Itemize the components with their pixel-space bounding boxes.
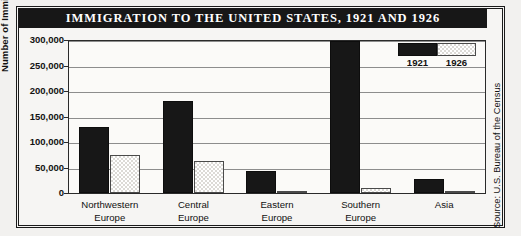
x-label-line1: Asia [402,199,486,212]
y-tick-label: 50,000 [18,162,64,173]
y-tick-label: 300,000 [18,34,64,45]
x-label-2: CentralEurope [152,199,236,224]
x-label-line2: Europe [152,212,236,225]
x-label-line1: Southern [319,199,403,212]
x-label-4: SouthernEurope [319,199,403,224]
legend-swatches [398,43,476,56]
x-label-line2: Europe [319,212,403,225]
legend-label-1926: 1926 [437,57,476,68]
x-label-line1: Northwestern [68,199,152,212]
bar-1926 [277,191,307,193]
chart-title: IMMIGRATION TO THE UNITED STATES, 1921 A… [19,9,487,28]
legend-labels: 1921 1926 [398,57,476,68]
bar-1926 [110,155,140,193]
legend: 1921 1926 [398,43,476,68]
bar-group [235,40,319,193]
bar-group [152,40,236,193]
y-tick-label: 200,000 [18,85,64,96]
y-tick-label: 100,000 [18,136,64,147]
bar-1921 [246,171,276,193]
bar-1921 [163,101,193,193]
x-label-line1: Central [152,199,236,212]
legend-swatch-1926 [437,43,476,56]
legend-swatch-1921 [398,43,437,56]
bar-1926 [361,188,391,193]
chart-figure: IMMIGRATION TO THE UNITED STATES, 1921 A… [0,0,521,236]
source-note: Source: U.S. Bureau of the Census [492,83,502,228]
bar-group [319,40,403,193]
bar-1926 [194,161,224,193]
x-label-line2: Europe [68,212,152,225]
y-tick-label: 250,000 [18,60,64,71]
legend-label-1921: 1921 [398,57,437,68]
x-label-3: EasternEurope [235,199,319,224]
x-label-line1: Eastern [235,199,319,212]
y-axis-label: Number of Immigrants [0,0,10,72]
y-tick-label: 0 [18,187,64,198]
bar-group [68,40,152,193]
x-label-1: NorthwesternEurope [68,199,152,224]
x-label-5: Asia [402,199,486,212]
x-label-line2: Europe [235,212,319,225]
bar-1921 [79,127,109,193]
bar-1921 [414,179,444,193]
y-tick-label: 150,000 [18,111,64,122]
bar-1926 [445,191,475,193]
bar-1921 [330,41,360,193]
